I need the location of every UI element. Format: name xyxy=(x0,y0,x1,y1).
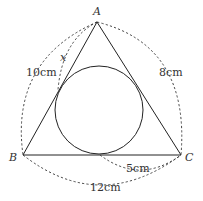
triangle-incircle-diagram: A B C 10cm x 8cm 5cm 12cm xyxy=(0,0,203,201)
triangle-abc xyxy=(23,22,181,155)
incircle xyxy=(55,66,143,154)
vertex-label-a: A xyxy=(92,5,101,18)
label-x: x xyxy=(60,51,67,64)
vertex-label-c: C xyxy=(185,151,194,164)
vertex-label-b: B xyxy=(8,151,17,164)
label-ab-length: 10cm xyxy=(26,66,57,79)
label-bc-length: 12cm xyxy=(90,181,121,194)
label-tangent-c-length: 5cm xyxy=(126,162,150,175)
label-ac-length: 8cm xyxy=(159,66,183,79)
